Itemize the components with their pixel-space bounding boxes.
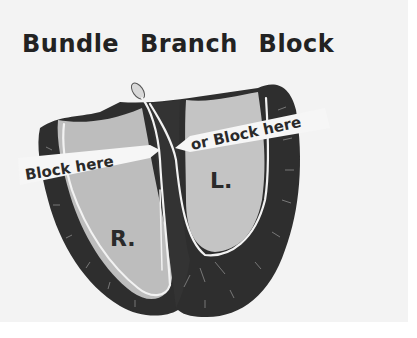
heart-diagram: Block here or Block here R. L. [0,0,417,338]
right-ventricle-label: R. [110,226,136,251]
left-ventricle-label: L. [210,168,232,193]
